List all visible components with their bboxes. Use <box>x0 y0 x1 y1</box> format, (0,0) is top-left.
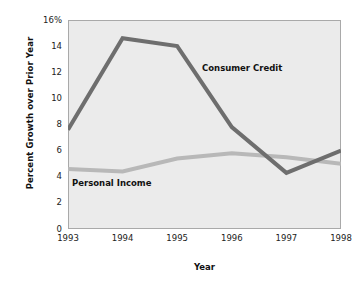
x-axis-title: Year <box>68 262 341 272</box>
y-tick-label: 8 <box>18 120 62 129</box>
x-tick-label: 1994 <box>99 233 147 243</box>
series-line-consumer-credit <box>68 38 341 173</box>
y-tick-label: 16% <box>18 16 62 25</box>
x-tick-label: 1995 <box>153 233 201 243</box>
x-tick-label: 1993 <box>44 233 92 243</box>
series-label-consumer-credit: Consumer Credit <box>202 63 282 73</box>
y-tick-label: 14 <box>18 42 62 51</box>
plot-lines <box>68 20 341 229</box>
series-label-personal-income: Personal Income <box>72 178 151 188</box>
y-tick-label: 12 <box>18 68 62 77</box>
x-tick-label: 1997 <box>262 233 310 243</box>
y-tick-label: 6 <box>18 146 62 155</box>
y-tick-label: 4 <box>18 172 62 181</box>
y-tick-label: 2 <box>18 198 62 207</box>
y-tick-label: 10 <box>18 94 62 103</box>
chart-container: Percent Growth over Prior Year 024681012… <box>0 0 361 284</box>
x-tick-label: 1998 <box>317 233 361 243</box>
y-tick-label: 0 <box>18 225 62 234</box>
x-tick-label: 1996 <box>208 233 256 243</box>
